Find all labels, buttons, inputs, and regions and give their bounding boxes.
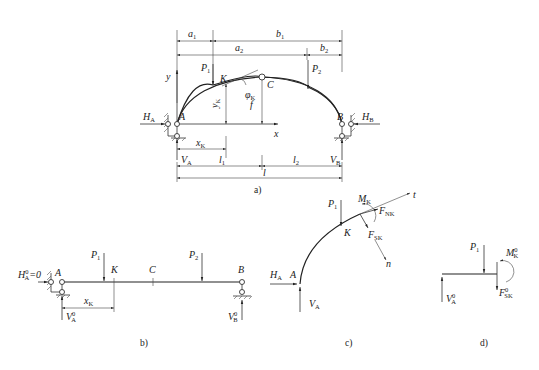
label-k: K [219,73,228,84]
label-xk: xK [195,137,205,149]
label-l1: l1 [219,154,225,166]
dim-b1: b1 [276,28,284,40]
label-b-c: C [149,264,156,275]
label-ha: HA [142,111,155,123]
caption-a: a) [254,185,261,196]
label-l2: l2 [293,154,299,166]
label-b: B [337,111,343,122]
c-label-a: A [289,269,297,280]
figure-b: A B K C P1 P2 H0A=0 V0A V0B xK b) [17,249,252,349]
c-label-va: VA [309,298,320,310]
crown-hinge-c [259,74,265,80]
dim-a2: a2 [235,42,243,54]
c-label-fsk: FSK [367,229,383,241]
d-label-va0: V0A [446,292,456,305]
b-label-p1: P1 [90,249,100,261]
c-label-t: t [413,189,416,200]
label-b-a: A [54,267,62,278]
n-axis [375,240,386,260]
mk0-moment-arc [500,261,514,282]
label-phik: φK [245,89,256,101]
arch-segment [300,214,360,284]
figure-a: a1 b1 a2 b2 P1 P2 y x yK f K C φK [140,28,380,196]
d-label-p1: P1 [469,241,479,253]
label-a: A [178,111,186,122]
label-l: l [263,167,266,178]
label-b-b: B [238,264,244,275]
label-p2: P2 [311,63,321,75]
dim-b2: b2 [320,42,328,54]
d-label-mk0: M0K [505,246,519,259]
figure-c: HA A VA P1 K t FNK FSK n MK c) [269,189,416,349]
c-label-p1: P1 [327,198,337,210]
phi-arc [241,79,246,85]
d-label-fsk0: F0SK [498,286,513,299]
b-label-ha0: H0A=0 [17,268,41,281]
caption-b: b) [140,338,148,349]
c-label-ha: HA [269,269,282,281]
label-va: VA [181,154,192,166]
c-label-mk: MK [357,193,371,205]
fsk-arrow [360,214,368,228]
b-label-xk: xK [83,295,93,307]
b-label-va0: V0A [66,310,76,323]
figure-d: V0A P1 F0SK M0K d) [442,241,519,349]
label-c: C [267,79,274,90]
dim-a1: a1 [188,28,196,40]
label-x: x [273,128,279,139]
label-y: y [165,71,171,82]
c-label-k: K [343,227,352,238]
arch-curve [177,76,342,124]
caption-d: d) [480,338,488,349]
c-label-n: n [386,258,391,269]
label-b-k: K [110,264,119,275]
c-label-fnk: FNK [378,205,395,217]
label-yk: yK [209,99,221,109]
label-hb: HB [361,111,374,123]
b-label-p2: P2 [188,249,198,261]
caption-c: c) [345,338,352,349]
label-p1: P1 [200,62,210,74]
label-vb: VB [330,154,341,166]
three-hinged-arch-diagram: a1 b1 a2 b2 P1 P2 y x yK f K C φK [0,0,539,370]
b-label-vb0: V0B [228,310,238,323]
